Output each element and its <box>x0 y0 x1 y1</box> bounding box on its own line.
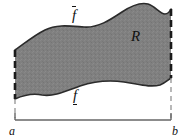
left-endpoint-label: a <box>9 125 15 137</box>
upper-function-symbol: f <box>72 7 76 23</box>
underbar-decoration <box>73 104 77 105</box>
region-diagram <box>0 0 187 140</box>
right-endpoint-label: b <box>172 125 178 137</box>
lower-function-label: f <box>73 88 77 105</box>
region-label: R <box>131 29 140 44</box>
shaded-region-r <box>15 3 171 99</box>
upper-function-label: f <box>72 6 76 23</box>
figure-container: f f R a b <box>0 0 187 140</box>
lower-function-symbol: f <box>73 87 77 103</box>
